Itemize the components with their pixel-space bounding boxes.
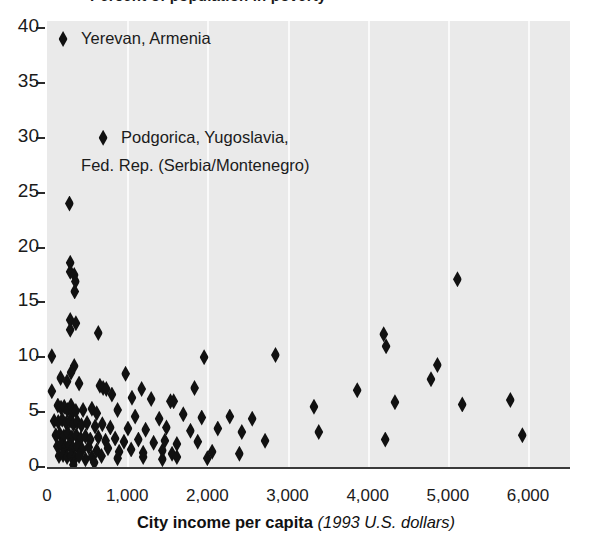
y-tick-label: 0 (0, 454, 39, 476)
x-tick-label: 0 (42, 486, 51, 506)
annotation-podgorica-line2: Fed. Rep. (Serbia/Montenegro) (81, 155, 309, 176)
data-point-marker (137, 381, 146, 397)
chart-title: Percent of population in poverty (90, 0, 326, 4)
data-point-marker (56, 370, 65, 386)
data-point-marker (70, 283, 79, 299)
x-tick-label: 6,000 (507, 486, 550, 506)
x-axis-line (47, 467, 570, 469)
data-point-marker (162, 419, 171, 435)
data-point-marker (225, 409, 234, 425)
data-point-marker (98, 416, 107, 432)
gridline-vertical (368, 21, 370, 468)
data-point-marker (271, 347, 280, 363)
data-point-marker (134, 432, 143, 448)
data-point-marker (65, 196, 74, 212)
y-tick-label: 40 (0, 15, 39, 37)
gridline-vertical (528, 21, 530, 468)
data-point-marker (213, 421, 222, 437)
x-tick-label: 1,000 (106, 486, 149, 506)
y-tick-label: 5 (0, 399, 39, 421)
data-point-marker (193, 434, 202, 450)
data-point-marker (506, 392, 515, 408)
data-point-marker (190, 380, 199, 396)
x-axis-title-units: (1993 U.S. dollars) (318, 513, 456, 531)
y-tick-label: 35 (0, 70, 39, 92)
data-point-marker (433, 357, 442, 373)
data-point-marker (179, 406, 188, 422)
gridline-vertical (448, 21, 450, 468)
data-point-marker (99, 130, 108, 146)
data-point-marker (47, 383, 56, 399)
data-point-marker (158, 451, 167, 467)
data-point-marker (381, 432, 390, 448)
data-point-marker (149, 435, 158, 451)
x-tick-label: 4,000 (346, 486, 389, 506)
y-tick-label: 15 (0, 289, 39, 311)
data-point-marker (113, 402, 122, 418)
y-tick-label: 25 (0, 180, 39, 202)
gridline-vertical (288, 21, 290, 468)
annotation-yerevan: Yerevan, Armenia (81, 28, 211, 49)
data-point-marker (147, 391, 156, 407)
y-tick-label: 10 (0, 344, 39, 366)
data-point-marker (237, 424, 246, 440)
data-point-marker (47, 348, 56, 364)
data-point-marker (197, 410, 206, 426)
data-point-marker (458, 396, 467, 412)
data-point-marker (75, 376, 84, 392)
x-axis-title-main: City income per capita (137, 513, 313, 531)
poverty-vs-income-scatter-chart: Percent of population in poverty 0510152… (0, 0, 592, 545)
x-tick-label: 5,000 (427, 486, 470, 506)
gridline-vertical (127, 21, 129, 468)
gridline-vertical (207, 21, 209, 468)
data-point-marker (106, 419, 115, 435)
data-point-marker (141, 422, 150, 438)
data-point-marker (123, 421, 132, 437)
data-point-marker (353, 382, 362, 398)
data-point-marker (186, 423, 195, 439)
data-point-marker (314, 424, 323, 440)
data-point-marker (59, 31, 68, 47)
x-tick-label: 3,000 (266, 486, 309, 506)
data-point-marker (248, 411, 257, 427)
y-tick-label: 30 (0, 125, 39, 147)
data-point-marker (131, 409, 140, 425)
plot-area (47, 21, 570, 468)
data-point-marker (111, 430, 120, 446)
data-point-marker (94, 325, 103, 341)
data-point-marker (309, 399, 318, 415)
x-tick-label: 2,000 (186, 486, 229, 506)
y-tick-label: 20 (0, 235, 39, 257)
data-point-marker (235, 446, 244, 462)
data-point-marker (453, 271, 462, 287)
data-point-marker (426, 371, 435, 387)
data-point-marker (390, 394, 399, 410)
data-point-marker (518, 427, 527, 443)
data-point-marker (261, 433, 270, 449)
data-point-marker (155, 411, 164, 427)
x-axis-title: City income per capita (1993 U.S. dollar… (0, 513, 592, 532)
annotation-podgorica-line1: Podgorica, Yugoslavia, (121, 127, 289, 148)
data-point-marker (79, 402, 88, 418)
